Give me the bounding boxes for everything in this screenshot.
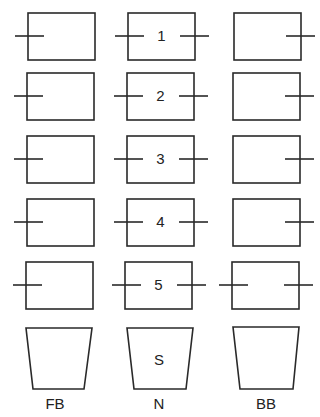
row-number-label: 1 [157, 27, 165, 44]
column-label-n: N [154, 395, 165, 412]
row-number-label: 5 [154, 276, 162, 293]
row-number-label: 4 [156, 213, 164, 230]
base-n-label: S [154, 351, 164, 368]
column-label-fb: FB [45, 395, 64, 412]
base-bb [233, 327, 299, 389]
column-label-bb: BB [256, 395, 276, 412]
base-fb [26, 328, 92, 389]
row-number-label: 2 [156, 87, 164, 104]
row-number-label: 3 [156, 150, 164, 167]
diagram-svg: 12345FBNBBS [0, 0, 320, 417]
diagram-canvas: 12345FBNBBS [0, 0, 320, 417]
